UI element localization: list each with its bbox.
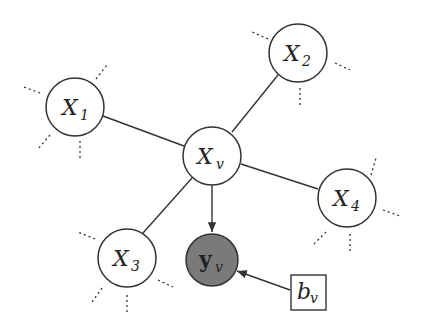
svg-text:v: v — [216, 156, 224, 172]
svg-text:2: 2 — [301, 53, 311, 69]
edge-x4-xv — [241, 164, 318, 189]
svg-text:X: X — [111, 246, 130, 271]
svg-text:X: X — [195, 144, 214, 169]
svg-text:v: v — [215, 259, 223, 275]
svg-text:X: X — [282, 41, 301, 66]
svg-text:3: 3 — [131, 258, 140, 274]
svg-text:4: 4 — [350, 198, 360, 214]
node-xv: X v — [183, 127, 241, 185]
graphical-model-diagram: X 1 X 2 X v X 4 X 3 y v b v — [0, 0, 424, 329]
node-bv-parameter: b v — [291, 275, 326, 310]
node-x4: X 4 — [318, 169, 376, 227]
node-x1: X 1 — [46, 78, 104, 136]
edge-x2-xv — [232, 75, 278, 132]
svg-text:v: v — [310, 290, 318, 306]
node-x3: X 3 — [98, 229, 156, 287]
edge-bv-yv — [237, 271, 290, 290]
edge-x3-xv — [143, 178, 192, 233]
svg-text:X: X — [331, 186, 350, 211]
svg-text:b: b — [297, 279, 311, 304]
svg-text:X: X — [60, 95, 79, 120]
node-yv-observed: y v — [186, 234, 238, 286]
edge-x1-xv — [103, 116, 184, 146]
svg-text:y: y — [198, 246, 213, 272]
node-x2: X 2 — [269, 24, 327, 82]
svg-text:1: 1 — [80, 107, 89, 123]
